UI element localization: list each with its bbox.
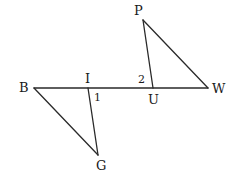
- angle-label-1: 1: [94, 91, 101, 104]
- point-label-w: W: [212, 81, 226, 96]
- point-label-p: P: [134, 3, 143, 18]
- point-label-i: I: [85, 71, 90, 86]
- angle-label-2: 2: [138, 73, 145, 86]
- geometry-diagram: B I G U P W 1 2: [0, 0, 233, 180]
- point-label-g: G: [96, 158, 106, 173]
- segment-pw: [143, 20, 208, 88]
- segment-bg: [34, 88, 98, 155]
- point-label-b: B: [19, 80, 29, 95]
- point-label-u: U: [148, 92, 159, 107]
